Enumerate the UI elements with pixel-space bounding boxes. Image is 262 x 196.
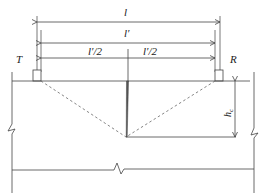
receiver: R <box>215 53 237 81</box>
label-inner-span: l′ <box>124 27 130 39</box>
label-half-span-right: l′/2 <box>143 45 158 57</box>
dimension-overall-span: l <box>37 6 220 22</box>
dimension-inner-span: l′ <box>41 27 215 43</box>
label-half-span-left: l′/2 <box>88 45 103 57</box>
dimension-half-spans: l′/2 l′/2 <box>41 45 215 82</box>
crack <box>126 81 236 137</box>
label-transmitter: T <box>16 53 23 65</box>
bottom-break-line <box>12 163 254 174</box>
dimension-crack-depth: hc <box>222 81 235 137</box>
extension-lines <box>37 16 220 72</box>
label-overall-span: l <box>124 6 127 18</box>
label-receiver: R <box>229 53 237 65</box>
label-crack-depth: hc <box>222 108 235 117</box>
crack-depth-diagram: l l′ l′/2 l′/2 T R hc <box>0 0 262 196</box>
